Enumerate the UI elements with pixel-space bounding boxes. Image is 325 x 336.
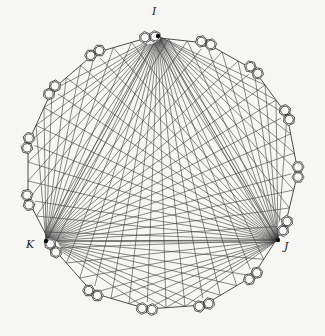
gadget-node (40, 77, 64, 103)
hub-label-j: J (284, 240, 288, 253)
hub-edge (46, 172, 298, 241)
hub-edge (158, 36, 285, 226)
hub-vertex-j (276, 238, 280, 242)
gadget-node (276, 102, 298, 128)
gadget-node (193, 33, 218, 53)
hub-vertex-i (156, 34, 160, 38)
hub-edge (36, 36, 158, 216)
hub-edge (46, 240, 278, 241)
hub-edge (185, 240, 278, 306)
hub-label-k: K (26, 238, 34, 251)
gadget-node (241, 57, 267, 82)
hub-edge (147, 36, 158, 309)
hub-edge (66, 78, 278, 240)
gadget-node (19, 188, 37, 212)
hub-edge (46, 37, 150, 241)
hub-vertex-k (44, 239, 48, 243)
diagram-canvas: I J K (0, 0, 325, 336)
hub-edge (93, 240, 278, 293)
hub-edge (46, 42, 132, 241)
gadget-node (19, 131, 37, 155)
gadget-node (80, 281, 106, 304)
gadget-node (291, 161, 305, 183)
hub-edge (45, 36, 158, 232)
graph-svg (0, 0, 325, 336)
hub-label-i: I (152, 5, 156, 18)
gadget-node (191, 295, 216, 315)
hub-edge (206, 43, 278, 240)
gadget-node (240, 264, 266, 289)
